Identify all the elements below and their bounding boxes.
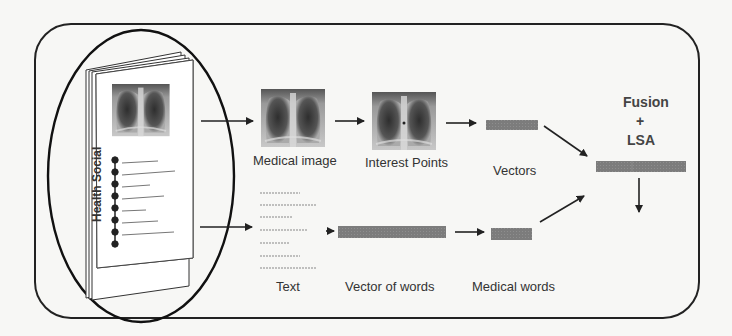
text-lines-icon xyxy=(260,193,317,268)
vector-of-words-bar xyxy=(338,226,446,238)
fusion-label: Fusion xyxy=(623,94,669,110)
interest-points-label: Interest Points xyxy=(365,155,448,170)
interest-points-xray xyxy=(372,92,436,150)
arrow-vector-to-fusion xyxy=(544,126,587,156)
medical-image-xray xyxy=(261,89,325,147)
fused-vector xyxy=(596,161,686,172)
lsa-label: LSA xyxy=(627,132,655,148)
image-vector xyxy=(486,120,538,130)
vector-of-words-label: Vector of words xyxy=(345,279,435,294)
text-label: Text xyxy=(276,279,300,294)
vectors-label: Vectors xyxy=(493,163,536,178)
health-social-label: Health Social xyxy=(90,147,104,222)
fusion-plus-label: + xyxy=(636,113,644,129)
arrow-medical-to-fusion xyxy=(540,196,584,222)
medical-words-bar xyxy=(491,228,532,240)
medical-image-label: Medical image xyxy=(253,153,337,168)
medical-words-label: Medical words xyxy=(472,279,555,294)
